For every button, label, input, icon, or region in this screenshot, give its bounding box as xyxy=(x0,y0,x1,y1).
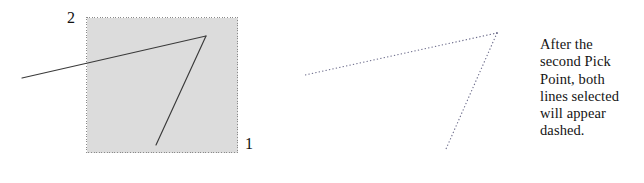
caption-line-5: will appear xyxy=(540,105,644,122)
pick-point-1-label: 1 xyxy=(245,136,253,152)
shallow-line-dashed xyxy=(305,33,497,75)
figure-canvas: 2 1 After the second Pick Point, both li… xyxy=(0,0,644,183)
caption-line-4: lines selected xyxy=(540,88,644,105)
caption-line-6: dashed. xyxy=(540,122,644,139)
caption-line-1: After the xyxy=(540,36,644,53)
pick-point-2-label: 2 xyxy=(67,10,75,26)
caption-line-2: second Pick xyxy=(540,53,644,70)
steep-line-dashed xyxy=(446,33,497,149)
caption-text-block: After the second Pick Point, both lines … xyxy=(540,36,644,140)
caption-line-3: Point, both xyxy=(540,71,644,88)
apex-vertex-dot xyxy=(496,32,498,34)
